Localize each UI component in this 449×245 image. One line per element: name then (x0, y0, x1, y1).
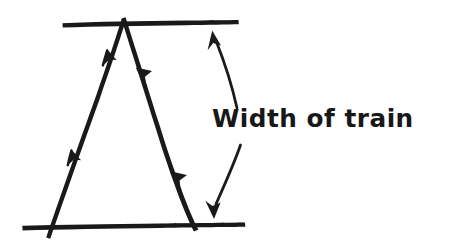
up-ray (46, 19, 126, 239)
curved-arrow-to-top-rail (208, 30, 237, 108)
down-ray (121, 17, 198, 231)
width-of-train-label: Width of train (212, 106, 414, 131)
bottom-rail (22, 222, 245, 230)
top-rail (63, 20, 239, 28)
sketch-canvas: Width of train (0, 0, 449, 245)
arrowhead-down (205, 201, 220, 219)
curved-arrow-to-bottom-rail (205, 145, 240, 219)
